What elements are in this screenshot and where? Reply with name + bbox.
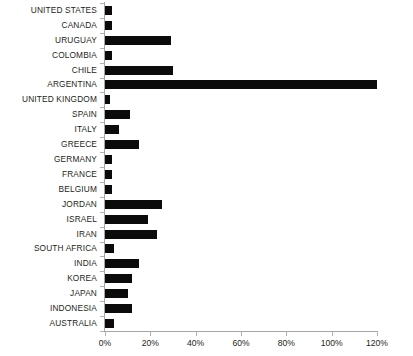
bar bbox=[105, 244, 114, 253]
x-axis-tick-label: 60% bbox=[232, 338, 249, 348]
y-axis-tick bbox=[100, 256, 104, 257]
y-axis-tick bbox=[100, 182, 104, 183]
x-axis-tick-label: 120% bbox=[366, 338, 388, 348]
bar-row bbox=[105, 48, 377, 63]
y-axis-tick bbox=[100, 78, 104, 79]
bar bbox=[105, 21, 112, 30]
x-axis-tick bbox=[377, 332, 378, 336]
bar-row bbox=[105, 63, 377, 78]
category-label: COLOMBIA bbox=[0, 48, 101, 63]
bar bbox=[105, 51, 112, 60]
category-label: JAPAN bbox=[0, 286, 101, 301]
y-axis-tick bbox=[100, 301, 104, 302]
bar-row bbox=[105, 122, 377, 137]
y-axis-tick bbox=[100, 18, 104, 19]
bar bbox=[105, 140, 139, 149]
y-axis-tick bbox=[100, 33, 104, 34]
y-axis-tick bbox=[100, 107, 104, 108]
y-axis-tick bbox=[100, 92, 104, 93]
bar bbox=[105, 80, 377, 89]
bar-row bbox=[105, 227, 377, 242]
bar bbox=[105, 95, 110, 104]
x-axis-tick-label: 0% bbox=[99, 338, 111, 348]
x-axis-tick bbox=[196, 332, 197, 336]
bar-row bbox=[105, 167, 377, 182]
bar bbox=[105, 6, 112, 15]
bar-row bbox=[105, 256, 377, 271]
bar-row bbox=[105, 286, 377, 301]
bar-row bbox=[105, 92, 377, 107]
y-axis-tick bbox=[100, 122, 104, 123]
bar-row bbox=[105, 78, 377, 93]
y-axis-tick bbox=[100, 316, 104, 317]
x-axis-tick bbox=[150, 332, 151, 336]
bar bbox=[105, 110, 130, 119]
category-label: CANADA bbox=[0, 18, 101, 33]
category-label: URUGUAY bbox=[0, 33, 101, 48]
bar bbox=[105, 319, 114, 328]
bar bbox=[105, 170, 112, 179]
bar-row bbox=[105, 301, 377, 316]
bar bbox=[105, 66, 173, 75]
bar bbox=[105, 185, 112, 194]
category-label: ITALY bbox=[0, 122, 101, 137]
bar-row bbox=[105, 271, 377, 286]
y-axis-tick bbox=[100, 48, 104, 49]
bar bbox=[105, 274, 132, 283]
bar-row bbox=[105, 3, 377, 18]
bar bbox=[105, 230, 157, 239]
bar-row bbox=[105, 197, 377, 212]
x-axis-tick-label: 40% bbox=[187, 338, 204, 348]
y-axis-tick bbox=[100, 3, 104, 4]
category-label: GERMANY bbox=[0, 152, 101, 167]
y-axis-tick bbox=[100, 137, 104, 138]
y-axis-tick bbox=[100, 271, 104, 272]
category-label: INDIA bbox=[0, 256, 101, 271]
y-axis-tick bbox=[100, 331, 104, 332]
category-label: JORDAN bbox=[0, 197, 101, 212]
bar bbox=[105, 289, 128, 298]
bar-row bbox=[105, 137, 377, 152]
bar-row bbox=[105, 212, 377, 227]
category-label: ARGENTINA bbox=[0, 78, 101, 93]
bar bbox=[105, 304, 132, 313]
x-axis-tick-label: 100% bbox=[321, 338, 343, 348]
category-label: UNITED KINGDOM bbox=[0, 92, 101, 107]
bar-row bbox=[105, 107, 377, 122]
bar bbox=[105, 36, 171, 45]
x-axis-tick-label: 20% bbox=[142, 338, 159, 348]
bar-chart: UNITED STATESCANADAURUGUAYCOLOMBIACHILEA… bbox=[0, 0, 413, 356]
category-label: FRANCE bbox=[0, 167, 101, 182]
x-axis-tick bbox=[332, 332, 333, 336]
x-axis-tick-label: 80% bbox=[278, 338, 295, 348]
category-label: GREECE bbox=[0, 137, 101, 152]
bar bbox=[105, 215, 148, 224]
bar bbox=[105, 155, 112, 164]
bar-row bbox=[105, 152, 377, 167]
bar-series bbox=[105, 3, 377, 331]
x-axis-tick bbox=[105, 332, 106, 336]
y-axis-tick bbox=[100, 63, 104, 64]
bar-row bbox=[105, 182, 377, 197]
category-label: CHILE bbox=[0, 63, 101, 78]
category-label: INDONESIA bbox=[0, 301, 101, 316]
y-axis-tick bbox=[100, 286, 104, 287]
category-label: AUSTRALIA bbox=[0, 316, 101, 331]
category-axis-labels: UNITED STATESCANADAURUGUAYCOLOMBIACHILEA… bbox=[0, 3, 101, 331]
category-label: SOUTH AFRICA bbox=[0, 242, 101, 257]
y-axis-tick bbox=[100, 197, 104, 198]
y-axis-tick bbox=[100, 227, 104, 228]
category-label: IRAN bbox=[0, 227, 101, 242]
y-axis-line bbox=[104, 2, 105, 332]
bar-row bbox=[105, 33, 377, 48]
x-axis-tick bbox=[241, 332, 242, 336]
bar-row bbox=[105, 18, 377, 33]
category-label: KOREA bbox=[0, 271, 101, 286]
x-axis-tick bbox=[286, 332, 287, 336]
category-label: BELGIUM bbox=[0, 182, 101, 197]
category-label: UNITED STATES bbox=[0, 3, 101, 18]
bar bbox=[105, 125, 119, 134]
bar bbox=[105, 259, 139, 268]
y-axis-tick bbox=[100, 152, 104, 153]
category-label: SPAIN bbox=[0, 107, 101, 122]
